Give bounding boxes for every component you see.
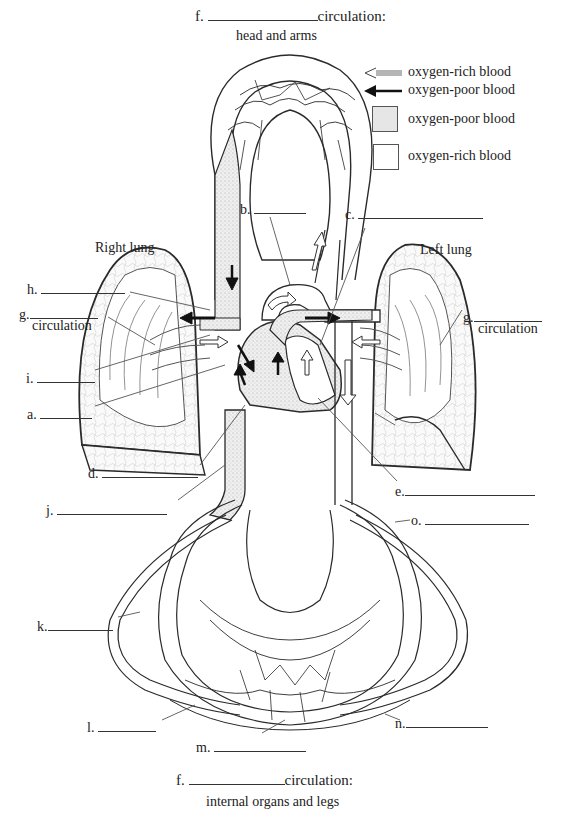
- label-d-blank[interactable]: [102, 466, 198, 478]
- bottom-title-blank[interactable]: [189, 773, 285, 785]
- label-d-letter: d.: [88, 466, 99, 481]
- bottom-title-prefix: f.: [176, 772, 185, 788]
- label-k-blank[interactable]: [48, 619, 113, 631]
- label-j: j.: [46, 503, 167, 519]
- label-n: n.: [395, 716, 488, 732]
- label-k-letter: k.: [37, 619, 48, 634]
- label-m-blank[interactable]: [214, 740, 306, 752]
- label-c-letter: c.: [345, 207, 355, 222]
- label-m-letter: m.: [196, 740, 210, 755]
- label-e: e.: [395, 484, 535, 500]
- label-e-blank[interactable]: [405, 484, 535, 496]
- label-g-right-sub: circulation: [478, 321, 538, 337]
- hollow-arrow-icon: [362, 66, 404, 80]
- label-i: i.: [26, 371, 95, 387]
- top-title-blank[interactable]: [208, 9, 318, 21]
- label-j-letter: j.: [46, 503, 53, 518]
- label-o: o.: [411, 513, 529, 529]
- label-i-blank[interactable]: [37, 371, 95, 383]
- label-o-blank[interactable]: [425, 513, 529, 525]
- empty-box-icon: [373, 144, 399, 170]
- label-n-letter: n.: [395, 716, 406, 731]
- top-circulation-subtitle: head and arms: [236, 28, 317, 44]
- label-b: b.: [240, 202, 306, 218]
- left-lung-label: Left lung: [420, 242, 472, 258]
- label-c-blank[interactable]: [358, 207, 483, 219]
- label-g-left-sub: circulation: [32, 318, 92, 334]
- right-lung-label: Right lung: [95, 240, 155, 256]
- label-b-letter: b.: [240, 202, 251, 217]
- label-a-blank[interactable]: [40, 407, 92, 419]
- top-circulation-title: f. circulation:: [195, 8, 386, 24]
- label-j-blank[interactable]: [57, 503, 167, 515]
- label-o-letter: o.: [411, 513, 422, 528]
- legend-label-oxygen-rich-box: oxygen-rich blood: [408, 148, 511, 164]
- label-l-blank[interactable]: [98, 720, 156, 732]
- label-b-blank[interactable]: [254, 202, 306, 214]
- label-c: c.: [345, 207, 483, 223]
- legend-label-oxygen-poor-box: oxygen-poor blood: [408, 111, 515, 127]
- top-title-prefix: f.: [195, 8, 204, 24]
- stippled-box-icon: [372, 106, 398, 132]
- label-i-letter: i.: [26, 371, 33, 386]
- label-g-right-letter: g.: [463, 310, 474, 325]
- bottom-circulation-subtitle: internal organs and legs: [206, 794, 339, 810]
- label-g-left-letter: g.: [19, 307, 30, 322]
- label-h: h.: [27, 282, 125, 298]
- label-a-letter: a.: [27, 407, 37, 422]
- bottom-circulation-title: f. circulation:: [176, 772, 353, 788]
- top-title-suffix: circulation:: [318, 8, 386, 24]
- label-k: k.: [37, 619, 113, 635]
- legend-label-oxygen-rich-arrow: oxygen-rich blood: [408, 64, 511, 80]
- legend-label-oxygen-poor-arrow: oxygen-poor blood: [408, 82, 515, 98]
- lower-body-capillary-bed: [108, 500, 467, 730]
- label-n-blank[interactable]: [406, 716, 488, 728]
- label-h-letter: h.: [27, 282, 38, 297]
- label-m: m.: [196, 740, 306, 756]
- label-l-letter: l.: [87, 720, 94, 735]
- label-l: l.: [87, 720, 156, 736]
- label-h-blank[interactable]: [41, 282, 125, 294]
- left-lung: [360, 244, 476, 470]
- label-d: d.: [88, 466, 198, 482]
- bottom-title-suffix: circulation:: [285, 772, 353, 788]
- label-a: a.: [27, 407, 92, 423]
- solid-arrow-icon: [362, 84, 404, 98]
- label-e-letter: e.: [395, 484, 405, 499]
